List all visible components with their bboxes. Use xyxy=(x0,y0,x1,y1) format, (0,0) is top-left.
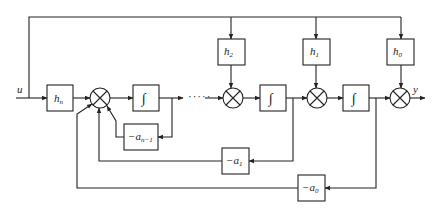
hn-block: hn xyxy=(47,85,73,111)
integrator-2: ∫ xyxy=(260,85,286,111)
h1-block: h1 xyxy=(303,39,330,65)
ellipsis: ····· xyxy=(188,90,211,102)
summing-junction-4 xyxy=(390,88,410,108)
h0-block: h0 xyxy=(387,39,414,65)
summing-junction-1 xyxy=(90,88,110,108)
integrator-1: ∫ xyxy=(133,85,159,111)
summing-junction-3 xyxy=(307,88,327,108)
input-signal: u xyxy=(16,83,47,98)
input-label: u xyxy=(17,83,23,95)
integrator-3: ∫ xyxy=(343,85,369,111)
h2-block: h2 xyxy=(218,39,245,65)
block-diagram: u hn ∫ ····· −an−1 h2 ∫ xyxy=(0,0,435,213)
output-label: y xyxy=(412,83,418,95)
summing-junction-2 xyxy=(223,88,243,108)
